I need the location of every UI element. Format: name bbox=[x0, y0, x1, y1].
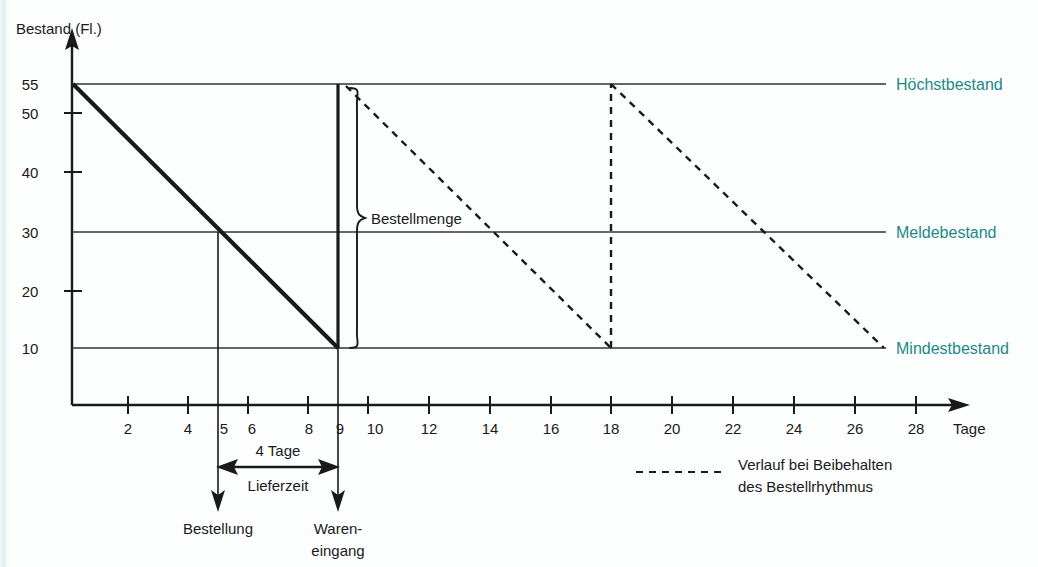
bestellmenge-brace bbox=[350, 88, 365, 348]
inventory-chart: Bestand (Fl.) Tage 55 50 40 30 20 10 Höc… bbox=[0, 0, 1038, 567]
lieferzeit-arrow bbox=[216, 459, 340, 475]
x-tick-label-14: 14 bbox=[482, 420, 499, 437]
y-tick-label-20: 20 bbox=[22, 283, 39, 300]
x-tick-label-5: 5 bbox=[220, 420, 228, 437]
x-tick-label-12: 12 bbox=[421, 420, 438, 437]
hoechstbestand-label: Höchstbestand bbox=[896, 76, 1003, 93]
projected-consumption-2 bbox=[611, 84, 884, 348]
y-axis-title: Bestand (Fl.) bbox=[16, 20, 102, 37]
x-tick-label-4: 4 bbox=[184, 420, 192, 437]
chart-page: Lagerbestandsbewegung Bestand (Fl.) Tage… bbox=[0, 0, 1038, 567]
meldebestand-label: Meldebestand bbox=[896, 224, 997, 241]
x-tick-label-6: 6 bbox=[248, 420, 256, 437]
legend-entry-line2: des Bestellrhythmus bbox=[738, 478, 873, 495]
series-ist-verlauf bbox=[73, 84, 338, 348]
x-tick-label-2: 2 bbox=[124, 420, 132, 437]
mindestbestand-label: Mindestbestand bbox=[896, 340, 1009, 357]
y-tick-label-40: 40 bbox=[22, 164, 39, 181]
x-tick-label-9: 9 bbox=[336, 420, 344, 437]
x-tick-label-28: 28 bbox=[908, 420, 925, 437]
x-tick-label-16: 16 bbox=[543, 420, 560, 437]
wareneingang-label-line2: eingang bbox=[311, 542, 364, 559]
y-tick-label-50: 50 bbox=[22, 105, 39, 122]
x-tick-label-22: 22 bbox=[725, 420, 742, 437]
x-tick-label-24: 24 bbox=[786, 420, 803, 437]
x-tick-label-20: 20 bbox=[664, 420, 681, 437]
y-tick-label-10: 10 bbox=[22, 340, 39, 357]
x-tick-label-10: 10 bbox=[367, 420, 384, 437]
consumption-line bbox=[73, 84, 338, 348]
bestellung-label: Bestellung bbox=[183, 520, 253, 537]
lieferzeit-label: Lieferzeit bbox=[248, 477, 310, 494]
y-tick-label-30: 30 bbox=[22, 224, 39, 241]
x-tick-label-8: 8 bbox=[305, 420, 313, 437]
x-tick-label-18: 18 bbox=[603, 420, 620, 437]
bestellmenge-label: Bestellmenge bbox=[371, 210, 462, 227]
chart-legend: Verlauf bei Beibehalten des Bestellrhyth… bbox=[636, 456, 892, 495]
wareneingang-label-line1: Waren- bbox=[314, 520, 363, 537]
x-tick-label-26: 26 bbox=[847, 420, 864, 437]
axis-group bbox=[65, 28, 970, 412]
lieferzeit-value: 4 Tage bbox=[256, 442, 301, 459]
y-tick-label-55: 55 bbox=[22, 76, 39, 93]
x-axis-title: Tage bbox=[953, 420, 986, 437]
legend-entry-line1: Verlauf bei Beibehalten bbox=[738, 456, 892, 473]
